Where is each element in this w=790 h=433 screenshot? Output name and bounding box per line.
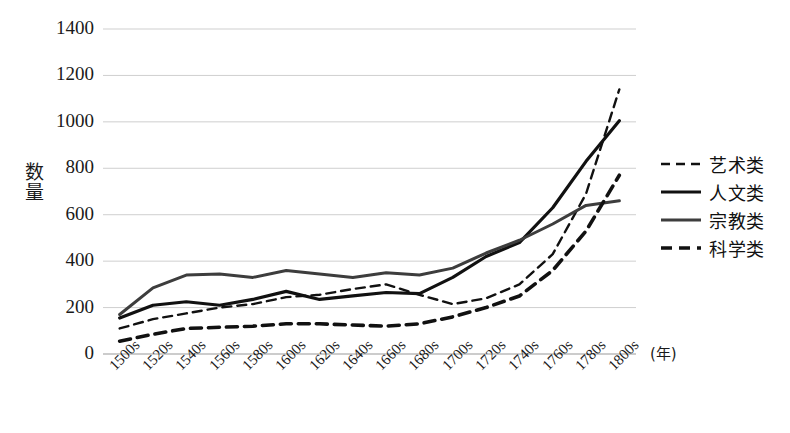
legend-swatch-icon xyxy=(660,158,702,170)
series-lines xyxy=(120,89,620,341)
y-axis-tick-label: 1000 xyxy=(56,110,94,132)
chart-legend: 艺术类人文类宗教类科学类 xyxy=(660,150,788,262)
series-line-3 xyxy=(120,175,620,341)
legend-label: 人文类 xyxy=(709,179,765,205)
legend-label: 艺术类 xyxy=(709,151,765,177)
legend-item-3[interactable]: 科学类 xyxy=(660,234,788,262)
gridlines xyxy=(103,29,636,354)
y-axis-tick-label: 200 xyxy=(66,296,95,318)
legend-swatch-icon xyxy=(660,214,702,226)
y-axis-tick-label: 400 xyxy=(66,249,95,271)
chart-container: 数量 0200400600800100012001400 1500s1520s1… xyxy=(0,0,790,433)
legend-swatch-icon xyxy=(660,242,702,254)
y-axis-tick-label: 1400 xyxy=(56,17,94,39)
y-axis-tick-label: 800 xyxy=(66,156,95,178)
y-axis-tick-label: 1200 xyxy=(56,63,94,85)
legend-item-0[interactable]: 艺术类 xyxy=(660,150,788,178)
legend-label: 宗教类 xyxy=(709,207,765,233)
line-chart-figure: 数量 0200400600800100012001400 1500s1520s1… xyxy=(0,0,790,433)
x-axis-unit-label: (年) xyxy=(650,342,677,363)
legend-swatch-icon xyxy=(660,186,702,198)
legend-item-1[interactable]: 人文类 xyxy=(660,178,788,206)
y-axis-tick-label: 600 xyxy=(66,203,95,225)
series-line-1 xyxy=(120,121,620,318)
y-axis-tick-label: 0 xyxy=(85,342,95,364)
legend-label: 科学类 xyxy=(709,235,765,261)
series-line-0 xyxy=(120,89,620,328)
legend-item-2[interactable]: 宗教类 xyxy=(660,206,788,234)
